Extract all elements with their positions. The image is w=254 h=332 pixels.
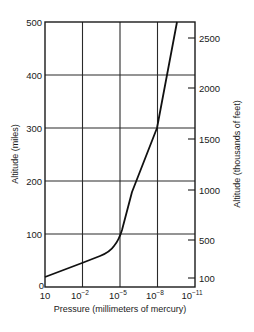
svg-text:10−2: 10−2 [71, 289, 89, 301]
bottom-axis-labels: 10 10−2 10−5 10−8 10−11 [40, 289, 203, 301]
svg-text:10: 10 [40, 290, 51, 301]
svg-text:500: 500 [26, 17, 42, 28]
y-axis-title: Altitude (miles) [10, 124, 20, 184]
svg-text:300: 300 [26, 123, 42, 134]
svg-text:1500: 1500 [199, 134, 220, 145]
svg-text:2500: 2500 [199, 33, 220, 44]
svg-text:100: 100 [199, 273, 215, 284]
grid [45, 22, 195, 287]
altitude-pressure-chart: 500 400 300 200 100 0 2500 2000 1500 100… [0, 0, 254, 332]
svg-text:2000: 2000 [199, 83, 220, 94]
right-axis-ticks [188, 38, 195, 278]
svg-text:400: 400 [26, 70, 42, 81]
svg-text:1000: 1000 [199, 185, 220, 196]
svg-text:200: 200 [26, 176, 42, 187]
svg-text:500: 500 [199, 235, 215, 246]
right-axis-labels: 2500 2000 1500 1000 500 100 [199, 33, 220, 284]
svg-text:10−5: 10−5 [109, 289, 127, 301]
svg-text:100: 100 [26, 229, 42, 240]
x-axis-title: Pressure (millimeters of mercury) [54, 304, 187, 314]
svg-text:10−11: 10−11 [181, 289, 203, 301]
y2-axis-title: Altitude (thousands of feet) [232, 100, 242, 208]
left-axis-labels: 500 400 300 200 100 0 [26, 17, 44, 291]
svg-text:10−8: 10−8 [146, 289, 164, 301]
